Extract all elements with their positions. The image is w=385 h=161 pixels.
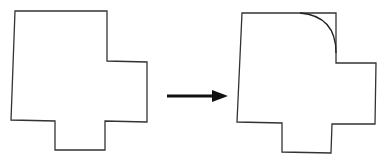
original-outline-shape (11, 11, 147, 150)
diagram-canvas (0, 0, 385, 161)
rounded-corner-arc (300, 13, 336, 53)
transform-arrow-icon (167, 90, 228, 102)
rounded-outline-shape (237, 13, 376, 153)
